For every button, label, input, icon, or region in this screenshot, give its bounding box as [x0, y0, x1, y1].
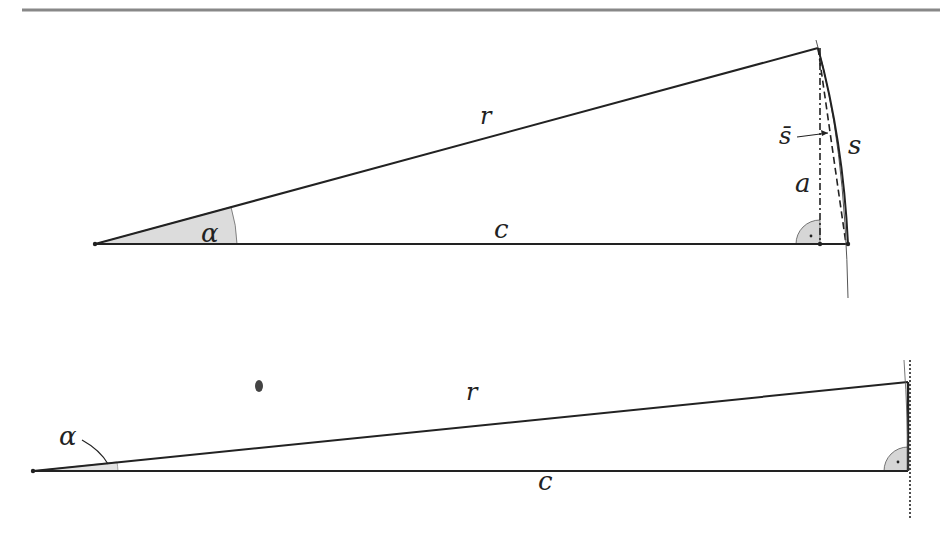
label-r: r [466, 378, 479, 406]
chord-line-s-bar [818, 48, 846, 244]
label-r: r [480, 102, 493, 130]
origin-point [31, 469, 35, 473]
arc-end-point [846, 242, 850, 246]
alpha-leader-line [82, 440, 108, 464]
label-s-bar: s̄ [779, 122, 792, 150]
bottom-diagram: r c α [31, 360, 910, 518]
label-c: c [494, 214, 509, 244]
foot-point [818, 242, 822, 246]
stray-mark [255, 380, 263, 392]
label-alpha: α [59, 421, 77, 451]
right-angle-dot [897, 461, 900, 464]
label-c: c [538, 466, 553, 496]
label-s: s [848, 130, 861, 160]
label-alpha: α [201, 218, 219, 248]
origin-point [93, 242, 97, 246]
label-a: a [795, 168, 811, 198]
diagram-canvas: r c α a s s̄ r c α [0, 0, 940, 541]
arrowhead-icon [821, 130, 828, 136]
right-angle-marker [796, 220, 820, 244]
right-angle-marker [884, 447, 908, 471]
right-angle-dot [810, 235, 813, 238]
radius-line-r [95, 48, 818, 244]
arc-s [818, 48, 848, 244]
top-diagram: r c α a s s̄ [93, 40, 862, 298]
